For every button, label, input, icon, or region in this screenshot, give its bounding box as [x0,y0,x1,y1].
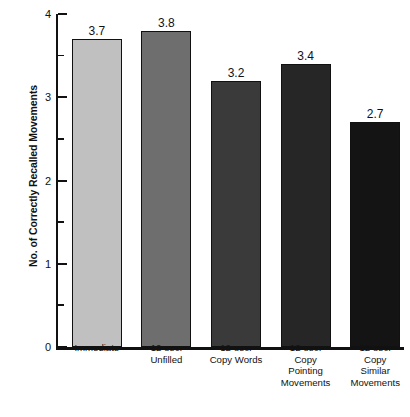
bar-value-label: 3.7 [88,24,105,38]
y-tick-label: 1 [45,258,51,270]
y-tick-label: 2 [45,175,51,187]
plot-area: 01234 3.73.83.23.42.7 [56,14,404,347]
bar: 3.8 [141,31,191,347]
bar: 3.2 [211,81,261,347]
bar: 3.4 [281,64,331,347]
y-tick-mark [58,263,67,265]
y-tick-minor [58,304,64,306]
y-tick-minor [58,138,64,140]
y-tick-mark [58,13,67,15]
y-tick-mark [58,180,67,182]
bar-value-label: 3.4 [297,49,314,63]
bar-value-label: 3.8 [158,16,175,30]
bar-value-label: 2.7 [367,107,384,121]
y-tick-minor [58,55,64,57]
y-tick-label: 4 [45,8,51,20]
bar-value-label: 3.2 [228,66,245,80]
x-tick-label: 12-sec. Copy Similar Movements [327,342,410,388]
y-tick-minor [58,221,64,223]
bar-chart-figure: No. of Correctly Recalled Movements 0123… [0,0,410,417]
bar: 3.7 [72,39,122,347]
y-tick-mark [58,96,67,98]
y-axis-title: No. of Correctly Recalled Movements [27,51,39,301]
bar: 2.7 [350,122,400,347]
y-tick-label: 3 [45,91,51,103]
